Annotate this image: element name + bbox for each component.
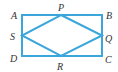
label-a: A: [10, 10, 18, 21]
label-s: S: [10, 31, 15, 42]
label-b: B: [106, 10, 112, 21]
label-c: C: [105, 54, 112, 65]
label-r: R: [56, 61, 63, 72]
rectangle-abcd: [22, 15, 102, 56]
geometry-diagram: A B S Q D C P R: [0, 0, 118, 72]
rhombus-pqrs: [22, 15, 102, 56]
label-d: D: [9, 53, 18, 64]
label-q: Q: [105, 33, 113, 44]
label-p: P: [57, 2, 64, 13]
